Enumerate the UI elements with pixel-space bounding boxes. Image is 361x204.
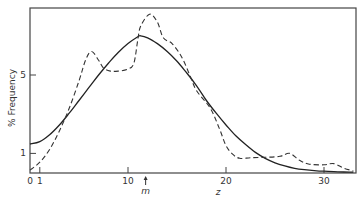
x-tick-label: 20	[220, 176, 232, 186]
mean-label: m	[141, 186, 150, 196]
x-tick-label: 10	[122, 176, 134, 186]
x-tick-label: 1	[37, 176, 43, 186]
y-axis-label: % Frequency	[7, 68, 17, 127]
frequency-chart: 01102030 15 m z % Frequency	[0, 0, 361, 204]
plot-frame	[30, 8, 356, 173]
x-tick-label: 30	[318, 176, 330, 186]
x-tick-label: 0	[27, 176, 33, 186]
x-axis-label: z	[215, 187, 221, 197]
x-axis-ticks: 01102030	[27, 167, 330, 186]
fitted-curve	[30, 36, 353, 173]
arrow-head-icon	[144, 176, 148, 180]
y-tick-label: 1	[20, 148, 26, 158]
y-tick-label: 5	[20, 70, 26, 80]
observed-curve	[30, 14, 353, 171]
mean-marker: m	[141, 176, 150, 196]
y-axis-ticks: 15	[20, 70, 36, 158]
